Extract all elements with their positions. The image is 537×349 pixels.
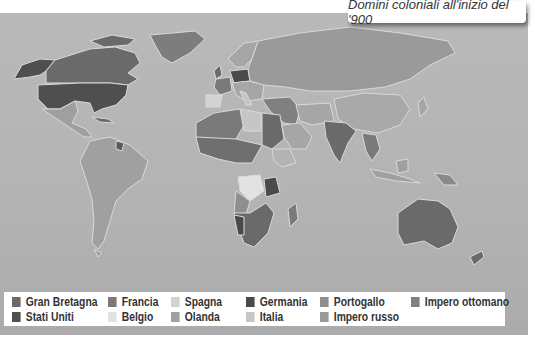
legend-label: Impero ottomano bbox=[425, 295, 509, 309]
legend-item-spagna: Spagna bbox=[171, 295, 222, 309]
region-new-guinea bbox=[434, 173, 458, 185]
region-france bbox=[214, 77, 232, 95]
legend-item-francia: Francia bbox=[108, 295, 158, 309]
region-uk bbox=[214, 65, 222, 79]
region-australia bbox=[398, 199, 458, 249]
legend-label: Olanda bbox=[185, 310, 220, 324]
legend-item-impero-russo: Impero russo bbox=[320, 310, 399, 324]
region-borneo bbox=[396, 159, 408, 173]
region-greenland bbox=[150, 31, 205, 63]
region-horn bbox=[272, 149, 296, 167]
legend-swatch bbox=[320, 297, 329, 307]
region-caribbean bbox=[92, 117, 114, 123]
legend-item-impero-ottomano: Impero ottomano bbox=[411, 295, 509, 309]
region-iberia bbox=[206, 95, 222, 107]
region-egypt-sudan bbox=[262, 113, 284, 149]
region-japan bbox=[418, 97, 428, 117]
legend-item-italia: Italia bbox=[246, 310, 283, 324]
region-canada bbox=[46, 47, 140, 85]
region-madagascar bbox=[288, 203, 298, 227]
legend-swatch bbox=[108, 297, 117, 307]
region-indochina bbox=[362, 133, 380, 161]
region-india bbox=[324, 121, 356, 163]
region-russia bbox=[248, 27, 455, 91]
legend-label: Francia bbox=[122, 295, 159, 309]
region-south-america bbox=[80, 137, 148, 249]
legend-swatch bbox=[12, 312, 21, 322]
legend-label: Impero russo bbox=[334, 310, 399, 324]
legend-label: Spagna bbox=[185, 295, 222, 309]
region-south-tip bbox=[94, 249, 102, 257]
legend-swatch bbox=[246, 312, 255, 322]
map-title: Domini coloniali all'inizio del '900 bbox=[348, 1, 526, 23]
region-east-africa bbox=[264, 177, 280, 197]
region-west-africa bbox=[196, 137, 262, 163]
region-sw-africa bbox=[234, 215, 244, 235]
region-new-zealand bbox=[470, 251, 484, 265]
legend-swatch bbox=[171, 312, 180, 322]
legend-label: Belgio bbox=[122, 310, 154, 324]
region-libya bbox=[240, 109, 262, 131]
legend-swatch bbox=[171, 297, 180, 307]
legend-swatch bbox=[108, 312, 117, 322]
legend-item-portogallo: Portogallo bbox=[320, 295, 385, 309]
legend: Gran Bretagna Francia Spagna Germania Po… bbox=[4, 292, 505, 326]
legend-item-olanda: Olanda bbox=[171, 310, 220, 324]
region-arabia bbox=[282, 123, 312, 149]
legend-swatch bbox=[411, 297, 420, 307]
legend-swatch bbox=[246, 297, 255, 307]
legend-label: Italia bbox=[260, 310, 284, 324]
legend-label: Portogallo bbox=[334, 295, 385, 309]
legend-item-germania: Germania bbox=[246, 295, 307, 309]
region-guianas bbox=[116, 141, 124, 151]
region-indonesia bbox=[370, 169, 420, 183]
legend-item-stati-uniti: Stati Uniti bbox=[12, 310, 74, 324]
region-arctic-islands bbox=[90, 35, 135, 47]
world-map bbox=[0, 13, 528, 335]
legend-item-belgio: Belgio bbox=[108, 310, 153, 324]
legend-swatch bbox=[12, 297, 21, 307]
legend-swatch bbox=[320, 312, 329, 322]
legend-label: Gran Bretagna bbox=[26, 295, 98, 309]
legend-label: Stati Uniti bbox=[26, 310, 74, 324]
legend-label: Germania bbox=[260, 295, 308, 309]
legend-item-gran-bretagna: Gran Bretagna bbox=[12, 295, 97, 309]
